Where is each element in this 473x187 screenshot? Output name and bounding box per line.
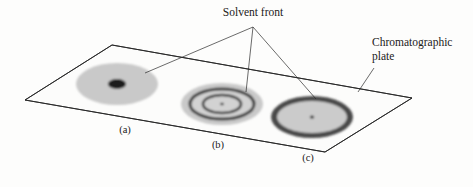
- figure-canvas: Solvent front Chromatographic plate (a) …: [0, 0, 473, 187]
- spot-c: [271, 96, 353, 138]
- caption-a: (a): [119, 124, 131, 136]
- spot-b-center-dot: [220, 103, 224, 106]
- solvent-front-label: Solvent front: [223, 6, 284, 18]
- spot-c-center-dot: [310, 115, 314, 118]
- chromatographic-plate-label-line2: plate: [372, 50, 394, 63]
- spot-b: [181, 83, 263, 125]
- leader-to-plate-edge: [358, 68, 374, 92]
- caption-b: (b): [212, 139, 225, 151]
- caption-c: (c): [302, 152, 314, 164]
- spot-a-core: [108, 79, 126, 89]
- chromatography-figure: Solvent front Chromatographic plate (a) …: [0, 0, 473, 187]
- chromatographic-plate-label-line1: Chromatographic: [372, 36, 452, 49]
- spot-a: [76, 63, 158, 105]
